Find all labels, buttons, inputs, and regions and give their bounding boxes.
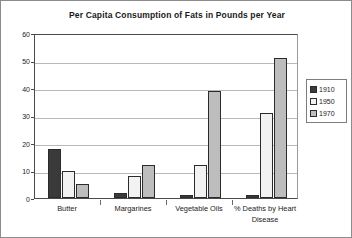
plot-area xyxy=(34,34,298,199)
bar-group xyxy=(35,35,101,198)
bar[interactable] xyxy=(76,184,89,198)
bar[interactable] xyxy=(208,91,221,198)
chart-legend: 191019501970 xyxy=(306,79,347,123)
y-tick-label: 20 xyxy=(4,141,30,148)
y-tick-mark xyxy=(31,199,34,200)
y-tick-label: 10 xyxy=(4,168,30,175)
y-tick-label: 60 xyxy=(4,31,30,38)
bar[interactable] xyxy=(62,171,75,199)
chart-title: Per Capita Consumption of Fats in Pounds… xyxy=(1,10,352,20)
legend-swatch-icon xyxy=(310,98,317,105)
bar[interactable] xyxy=(48,149,61,199)
bar[interactable] xyxy=(128,176,141,198)
bar-group xyxy=(101,35,167,198)
x-category-label: Margarines xyxy=(100,204,166,215)
y-tick-label: 0 xyxy=(4,196,30,203)
bar[interactable] xyxy=(246,195,259,198)
bar[interactable] xyxy=(180,195,193,198)
legend-label: 1970 xyxy=(319,110,335,117)
bar-group xyxy=(233,35,299,198)
bar[interactable] xyxy=(260,113,273,198)
legend-label: 1950 xyxy=(319,98,335,105)
y-tick-label: 50 xyxy=(4,58,30,65)
bar-group xyxy=(167,35,233,198)
bar[interactable] xyxy=(194,165,207,198)
y-tick-label: 40 xyxy=(4,86,30,93)
legend-label: 1910 xyxy=(319,86,335,93)
x-category-label: % Deaths by Heart Disease xyxy=(232,204,298,225)
bar[interactable] xyxy=(114,193,127,199)
legend-item[interactable]: 1970 xyxy=(310,107,343,119)
legend-swatch-icon xyxy=(310,86,317,93)
legend-item[interactable]: 1910 xyxy=(310,83,343,95)
bar[interactable] xyxy=(274,58,287,198)
x-category-label: Butter xyxy=(34,204,100,215)
legend-item[interactable]: 1950 xyxy=(310,95,343,107)
legend-swatch-icon xyxy=(310,110,317,117)
bar[interactable] xyxy=(142,165,155,198)
y-tick-label: 30 xyxy=(4,113,30,120)
x-category-label: Vegetable Oils xyxy=(166,204,232,215)
chart-canvas: Per Capita Consumption of Fats in Pounds… xyxy=(0,0,352,238)
